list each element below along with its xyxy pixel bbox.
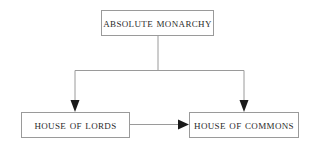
node-house-of-commons: House of Commons [189,112,299,138]
node-absolute-monarchy: Absolute Monarchy [101,10,214,36]
edge-lords-to-commons-arrowhead [178,120,189,130]
node-house-of-lords-label: House of Lords [34,119,116,132]
flowchart-diagram: Absolute Monarchy House of Lords House o… [0,0,312,145]
node-house-of-lords: House of Lords [21,112,130,138]
node-house-of-commons-label: House of Commons [194,119,294,132]
edge-monarchy-to-lords-arrowhead [71,100,80,112]
edge-monarchy-to-commons-path [158,71,244,102]
edge-monarchy-to-lords [71,36,159,112]
edge-monarchy-to-commons-arrowhead [240,100,249,112]
edge-lords-to-commons [130,120,189,130]
node-absolute-monarchy-label: Absolute Monarchy [103,17,212,30]
edge-monarchy-to-lords-path [75,36,158,101]
edge-monarchy-to-commons [158,71,249,113]
